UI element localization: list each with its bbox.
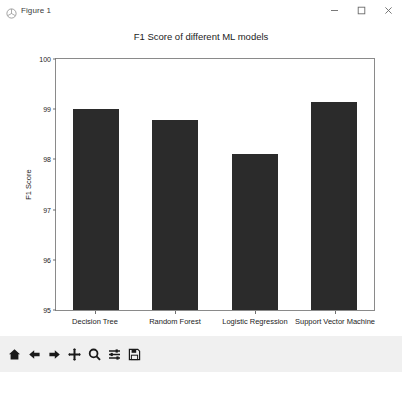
matplotlib-icon [6, 5, 17, 16]
window-controls [321, 0, 402, 21]
x-tick-label: Random Forest [149, 317, 201, 326]
zoom-button[interactable] [85, 345, 104, 364]
navigation-toolbar [0, 336, 402, 372]
bar-slot [56, 59, 136, 310]
back-button[interactable] [25, 345, 44, 364]
window-titlebar: Figure 1 [0, 0, 402, 21]
x-tick: Random Forest [135, 311, 215, 326]
plot-axes: 9596979899100 [55, 58, 375, 311]
x-tick: Decision Tree [55, 311, 135, 326]
chart-title: F1 Score of different ML models [0, 31, 402, 42]
bar-3 [311, 102, 357, 310]
y-tick-label: 98 [35, 156, 51, 163]
maximize-button[interactable] [348, 0, 375, 21]
home-button[interactable] [5, 345, 24, 364]
bar-0 [73, 109, 119, 310]
titlebar-left: Figure 1 [0, 5, 51, 16]
y-tick-label: 96 [35, 256, 51, 263]
save-button[interactable] [125, 345, 144, 364]
close-button[interactable] [375, 0, 402, 21]
x-tick-label: Logistic Regression [222, 317, 287, 326]
x-tick-mark [175, 311, 176, 314]
y-tick-label: 100 [35, 56, 51, 63]
y-tick-mark [53, 59, 56, 60]
bar-1 [152, 120, 198, 310]
y-tick-label: 97 [35, 206, 51, 213]
status-bar [0, 372, 402, 394]
y-tick: 99 [35, 106, 56, 113]
forward-button[interactable] [45, 345, 64, 364]
y-tick: 98 [35, 156, 56, 163]
y-tick-label: 99 [35, 106, 51, 113]
y-tick-mark [53, 259, 56, 260]
x-tick-label: Support Vector Machine [295, 317, 375, 326]
y-tick: 100 [35, 56, 56, 63]
bar-slot [215, 59, 295, 310]
y-axis-label-text: F1 Score [24, 169, 33, 199]
x-tick-label: Decision Tree [72, 317, 118, 326]
y-tick: 96 [35, 256, 56, 263]
y-tick-mark [53, 109, 56, 110]
minimize-button[interactable] [321, 0, 348, 21]
y-axis-label: F1 Score [22, 58, 34, 311]
x-tick: Support Vector Machine [295, 311, 375, 326]
subplots-button[interactable] [105, 345, 124, 364]
x-tick-mark [95, 311, 96, 314]
y-tick: 97 [35, 206, 56, 213]
bar-series [56, 59, 374, 310]
x-tick: Logistic Regression [215, 311, 295, 326]
pan-button[interactable] [65, 345, 84, 364]
y-tick-label: 95 [35, 307, 51, 314]
bar-slot [295, 59, 375, 310]
x-tick-mark [255, 311, 256, 314]
window-title: Figure 1 [21, 6, 51, 15]
bar-2 [232, 154, 278, 310]
x-axis-ticks: Decision TreeRandom ForestLogistic Regre… [55, 311, 375, 326]
x-tick-mark [335, 311, 336, 314]
y-tick-mark [53, 159, 56, 160]
figure-canvas[interactable]: F1 Score of different ML models F1 Score… [0, 21, 402, 336]
bar-slot [136, 59, 216, 310]
y-tick: 95 [35, 307, 56, 314]
y-tick-mark [53, 209, 56, 210]
